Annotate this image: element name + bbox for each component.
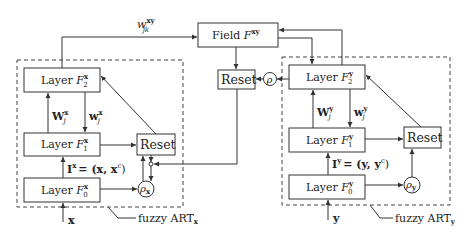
input-x-label: x (68, 214, 75, 227)
vigilance-y-node: ρy (404, 177, 420, 193)
reset-x-label: Reset (140, 137, 176, 152)
top-down-weight-x: wxj (88, 108, 103, 125)
bottom-up-weight-y: Wyj (316, 104, 334, 121)
input-equation-y: Iy= (y, yc) (332, 156, 389, 171)
svg-text:Layer Fx1: Layer Fx1 (41, 136, 89, 153)
vigilance-x-node: ρx (138, 181, 154, 197)
caption-fuzzy-art-y: fuzzy ARTy (395, 212, 456, 226)
layer-f1y: Layer Fy1 (289, 128, 365, 152)
layer-f2y: Layer Fy2 (289, 65, 365, 89)
layer-f2x: Layer Fx2 (24, 68, 100, 92)
arrow-f2x-to-map-field (62, 37, 197, 68)
caption-fuzzy-art-x: fuzzy ARTx (138, 212, 199, 226)
fuzzy-artmap-diagram: Field Fxy wxyjk Reset ρ Layer Fx2 Layer … (0, 0, 469, 241)
layer-f0y: Layer Fy0 (289, 175, 365, 199)
map-vigilance-node: ρ (264, 73, 277, 86)
bottom-up-weight-x: Wxj (51, 108, 69, 125)
map-reset-label: Reset (221, 72, 257, 87)
caption-y-leader (370, 205, 393, 218)
svg-text:Layer Fx0: Layer Fx0 (41, 182, 89, 199)
input-equation-x: Ix= (x, xc) (67, 161, 126, 176)
map-field-superscript: xy (251, 27, 260, 36)
arrow-f2y-to-map-field (279, 30, 342, 65)
reset-x-box: Reset (137, 134, 176, 155)
map-field-box: Field Fxy (198, 23, 278, 47)
layer-f0x: Layer Fx0 (24, 178, 100, 202)
caption-x-leader (108, 207, 136, 218)
svg-text:Layer Fy1: Layer Fy1 (306, 132, 354, 149)
reset-y-box: Reset (404, 127, 443, 148)
map-vigilance-symbol: ρ (266, 74, 273, 85)
map-field-symbol: F (243, 29, 252, 42)
arrow-reset-y-to-f2y (366, 75, 421, 127)
top-down-weight-y: wyj (353, 104, 368, 121)
svg-text:Layer Fy0: Layer Fy0 (306, 179, 354, 196)
map-weight-label: wxyjk (137, 16, 156, 34)
svg-text:Layer Fy2: Layer Fy2 (306, 69, 354, 86)
input-y-label: y (332, 212, 340, 225)
map-reset-box: Reset (218, 70, 257, 89)
match-tracking-junction (149, 162, 153, 166)
layer-f1x: Layer Fx1 (24, 133, 100, 156)
map-field-label: Field (212, 29, 240, 42)
arrow-map-field-to-f2y (278, 38, 312, 64)
svg-text:Layer Fx2: Layer Fx2 (41, 72, 89, 89)
arrow-reset-x-to-f2x (101, 76, 156, 134)
reset-y-label: Reset (407, 130, 443, 145)
